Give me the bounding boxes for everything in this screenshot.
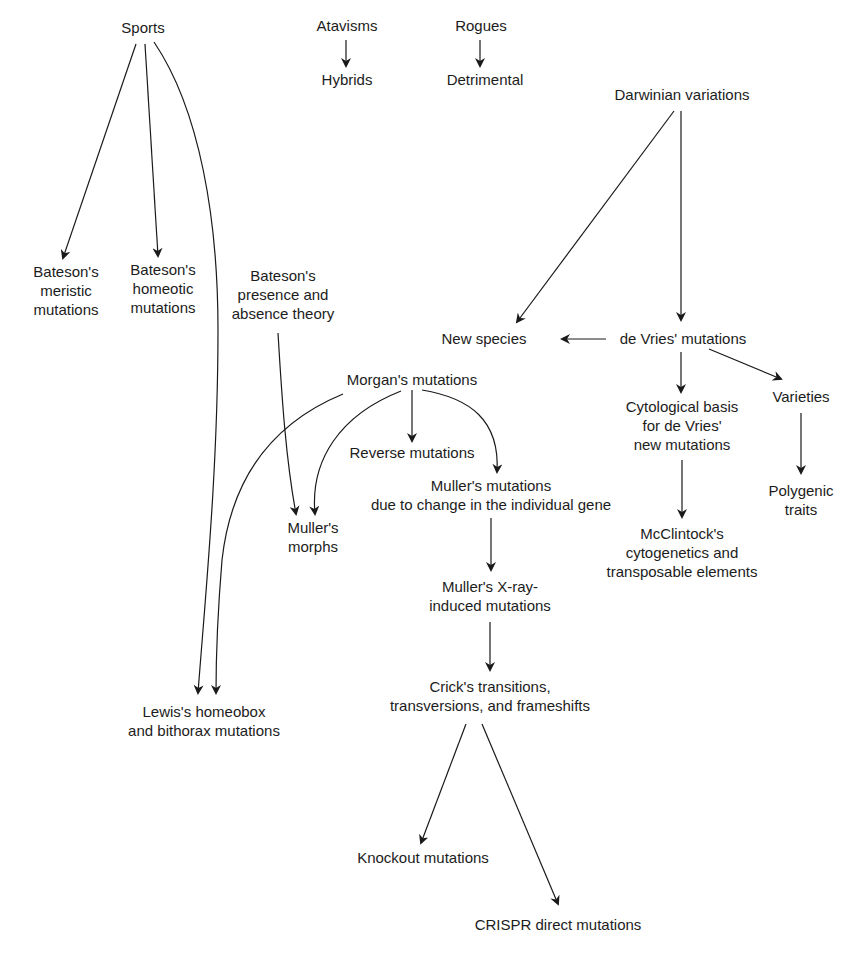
node-polygenic-traits: Polygenic traits [768, 481, 833, 519]
node-hybrids: Hybrids [322, 70, 373, 89]
node-crispr: CRISPR direct mutations [475, 915, 642, 934]
node-atavisms: Atavisms [317, 16, 378, 35]
node-knockout: Knockout mutations [357, 848, 489, 867]
node-varieties: Varieties [772, 387, 829, 406]
node-bateson-presence-absence: Bateson's presence and absence theory [232, 266, 335, 323]
node-rogues: Rogues [455, 16, 507, 35]
node-detrimental: Detrimental [447, 70, 524, 89]
edge-sports-meristic [63, 44, 136, 258]
edge-darwinian-newspecies [517, 111, 674, 322]
edge-crick-crispr [482, 724, 558, 904]
node-new-species: New species [441, 329, 526, 348]
node-de-vries-mutations: de Vries' mutations [620, 329, 747, 348]
node-lewis: Lewis's homeobox and bithorax mutations [128, 702, 280, 740]
node-bateson-meristic: Bateson's meristic mutations [33, 262, 98, 319]
mutation-concept-diagram: Sports Atavisms Hybrids Rogues Detriment… [0, 0, 864, 957]
node-mullers-morphs: Muller's morphs [287, 518, 338, 556]
node-muller-gene-mutations: Muller's mutations due to change in the … [371, 476, 611, 514]
node-reverse-mutations: Reverse mutations [349, 443, 474, 462]
edge-crick-knockout [421, 724, 466, 843]
edge-sports-lewis [154, 42, 218, 693]
node-sports: Sports [121, 18, 164, 37]
node-crick: Crick's transitions, transversions, and … [390, 677, 590, 715]
node-darwinian-variations: Darwinian variations [614, 85, 749, 104]
node-bateson-homeotic: Bateson's homeotic mutations [130, 260, 195, 317]
node-cytological-basis: Cytological basis for de Vries' new muta… [626, 397, 739, 454]
node-mcclintock: McClintock's cytogenetics and transposab… [607, 524, 758, 581]
edge-devries-varieties [709, 349, 781, 379]
node-morgans-mutations: Morgan's mutations [347, 370, 477, 389]
node-muller-xray: Muller's X-ray- induced mutations [429, 577, 551, 615]
edge-presence-morphs [278, 333, 296, 514]
edge-sports-homeotic [145, 44, 158, 256]
